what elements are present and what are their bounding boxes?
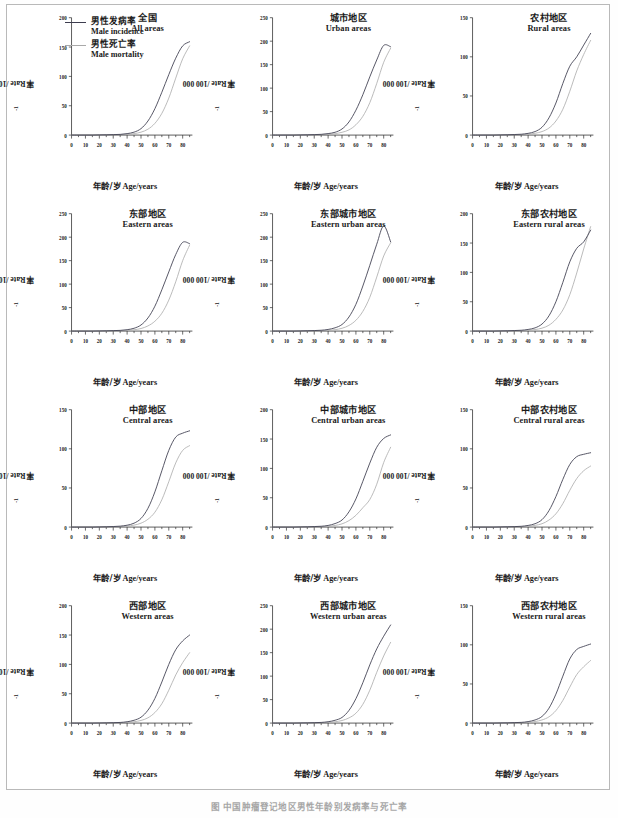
x-tick-label: 40	[526, 533, 531, 540]
x-tick-label: 80	[381, 729, 386, 736]
y-tick-label: 100	[59, 281, 67, 288]
x-axis-label: 年龄/岁 Age/years	[51, 179, 200, 191]
x-axis-label: 年龄/岁 Age/years	[252, 179, 401, 191]
y-axis-label: 率Rate /100 000-1	[406, 601, 422, 745]
y-tick-label: 150	[260, 436, 268, 443]
x-tick-label: 60	[554, 533, 559, 540]
y-tick-label: 200	[59, 603, 67, 610]
chart-panel-inner: 率Rate /100 000-1年龄/岁 Age/years0102030405…	[408, 5, 609, 201]
y-tick-label: 150	[59, 258, 67, 265]
chart-panel-inner: 率Rate /100 000-1年龄/岁 Age/years0102030405…	[208, 397, 409, 593]
y-tick-label: 150	[460, 603, 468, 610]
x-axis-label-en: Age/years	[524, 770, 559, 779]
y-tick-label: 50	[262, 495, 267, 502]
chart-panel-inner: 率Rate /100 000-1年龄/岁 Age/years0102030405…	[408, 397, 609, 593]
y-axis-label-exponent: -1	[13, 106, 19, 111]
x-tick-label: 30	[311, 141, 316, 148]
plot-area: 01020304050607080050100150	[51, 405, 200, 549]
x-axis-label-en: Age/years	[123, 182, 158, 191]
x-tick-label: 40	[526, 141, 531, 148]
y-tick-label: 0	[265, 720, 268, 727]
x-tick-label: 20	[297, 141, 302, 148]
x-tick-label: 0	[472, 729, 475, 736]
x-tick-label: 0	[271, 729, 274, 736]
x-tick-label: 0	[271, 337, 274, 344]
y-axis-label-exponent: -1	[415, 106, 421, 111]
x-tick-label: 20	[97, 729, 102, 736]
y-tick-label: 50	[262, 305, 267, 312]
x-tick-label: 60	[152, 141, 157, 148]
x-tick-label: 20	[498, 337, 503, 344]
x-tick-label: 60	[152, 337, 157, 344]
x-tick-label: 70	[367, 729, 372, 736]
x-tick-label: 80	[180, 141, 185, 148]
y-tick-label: 150	[460, 240, 468, 247]
y-tick-label: 150	[59, 407, 67, 414]
mortality-curve	[473, 660, 591, 723]
chart-panel: 率Rate /100 000-1年龄/岁 Age/years0102030405…	[7, 5, 208, 201]
plot-svg: 01020304050607080050100150	[452, 13, 601, 157]
y-tick-label: 200	[260, 626, 268, 633]
mortality-curve	[72, 653, 190, 723]
incidence-curve	[473, 644, 591, 723]
legend-item-incidence-en: Male incidence	[91, 27, 144, 36]
x-axis-label: 年龄/岁 Age/years	[452, 767, 601, 779]
y-tick-label: 100	[460, 54, 468, 61]
y-tick-label: 0	[466, 132, 469, 139]
y-tick-label: 100	[260, 85, 268, 92]
x-axis-label-en: Age/years	[524, 574, 559, 583]
chart-panel: 率Rate /100 000-1年龄/岁 Age/years0102030405…	[408, 397, 609, 593]
y-axis-label: 率Rate /100 000-1	[5, 209, 21, 353]
chart-panel: 率Rate /100 000-1年龄/岁 Age/years0102030405…	[208, 5, 409, 201]
y-tick-label: 50	[463, 485, 468, 492]
y-axis-label: 率Rate /100 000-1	[5, 601, 21, 745]
x-tick-label: 0	[70, 141, 73, 148]
x-tick-label: 10	[83, 337, 88, 344]
incidence-curve	[72, 242, 190, 331]
plot-area: 01020304050607080050100150	[452, 601, 601, 745]
x-tick-label: 70	[166, 141, 171, 148]
x-tick-label: 0	[70, 533, 73, 540]
y-tick-label: 100	[260, 673, 268, 680]
mortality-curve	[72, 446, 190, 527]
x-tick-label: 80	[180, 337, 185, 344]
x-axis-label-cn: 年龄/岁	[93, 377, 120, 387]
x-axis-label-cn: 年龄/岁	[294, 377, 321, 387]
y-axis-label-exponent: -1	[415, 498, 421, 503]
x-tick-label: 20	[498, 141, 503, 148]
y-axis-label-exponent: -1	[214, 106, 220, 111]
x-tick-label: 50	[138, 141, 143, 148]
incidence-curve	[272, 226, 390, 331]
y-tick-label: 250	[260, 603, 268, 610]
incidence-curve	[473, 453, 591, 527]
x-axis-label: 年龄/岁 Age/years	[252, 571, 401, 583]
x-tick-label: 70	[367, 337, 372, 344]
x-tick-label: 70	[166, 729, 171, 736]
y-tick-label: 50	[62, 691, 67, 698]
x-axis-label-en: Age/years	[323, 182, 358, 191]
chart-panel-inner: 率Rate /100 000-1年龄/岁 Age/years0102030405…	[7, 201, 208, 397]
plot-area: 01020304050607080050100150200250	[51, 209, 200, 353]
x-tick-label: 40	[125, 729, 130, 736]
legend-item-mortality-cn: 男性死亡率	[91, 40, 144, 50]
x-axis-label-cn: 年龄/岁	[495, 573, 522, 583]
plot-svg: 01020304050607080050100150	[51, 405, 200, 549]
legend-item-incidence: 男性发病率Male incidence	[65, 17, 144, 36]
chart-panel-inner: 率Rate /100 000-1年龄/岁 Age/years0102030405…	[7, 593, 208, 789]
mortality-curve	[473, 227, 591, 331]
incidence-curve	[72, 635, 190, 723]
x-tick-label: 80	[180, 533, 185, 540]
chart-panel-inner: 率Rate /100 000-1年龄/岁 Age/years0102030405…	[208, 201, 409, 397]
x-tick-label: 10	[284, 729, 289, 736]
x-tick-label: 80	[381, 141, 386, 148]
x-tick-label: 0	[271, 533, 274, 540]
y-tick-label: 50	[463, 681, 468, 688]
y-tick-label: 250	[260, 211, 268, 218]
x-tick-label: 20	[97, 533, 102, 540]
x-axis-label-en: Age/years	[123, 770, 158, 779]
y-tick-label: 0	[64, 132, 67, 139]
plot-svg: 01020304050607080050100150200250	[252, 13, 401, 157]
x-tick-label: 50	[339, 729, 344, 736]
x-tick-label: 0	[472, 337, 475, 344]
y-axis-label-exponent: -1	[415, 694, 421, 699]
